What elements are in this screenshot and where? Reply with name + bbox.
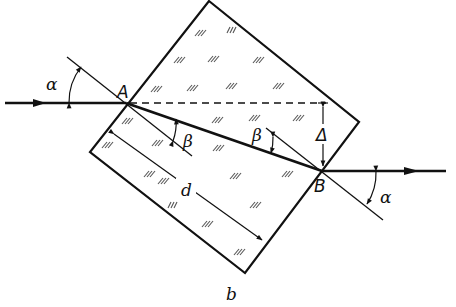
point-a-label: A	[116, 82, 129, 102]
refracted-ray	[126, 103, 322, 171]
angle-arc-beta-left	[173, 119, 176, 141]
beta-label-left: β	[182, 131, 193, 151]
glass-hatching	[102, 27, 304, 255]
optics-diagram: α β β α Δ d A B b	[0, 0, 456, 307]
delta-label: Δ	[314, 125, 328, 145]
incident-ray-arrow-icon	[33, 99, 46, 107]
normal-line-a	[67, 57, 192, 156]
angle-arc-beta-right	[271, 137, 273, 153]
alpha-label-right: α	[380, 187, 392, 207]
angle-arc-alpha-left	[69, 67, 81, 103]
angle-arc-alpha-right	[367, 171, 376, 204]
beta-label-right: β	[251, 125, 262, 145]
figure-caption: b	[226, 284, 237, 304]
thickness-label: d	[181, 180, 192, 200]
alpha-label-left: α	[46, 74, 58, 94]
point-b-label: B	[314, 176, 326, 196]
emergent-ray-arrow-icon	[404, 167, 419, 175]
